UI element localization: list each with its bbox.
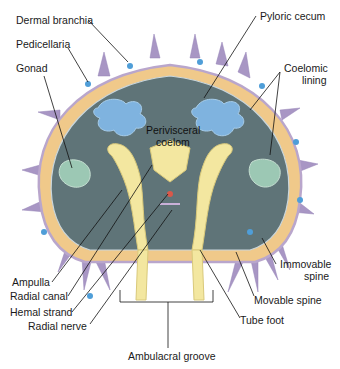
- label-coelomic-lining-1: Coelomic: [284, 62, 328, 74]
- label-hemal-strand: Hemal strand: [10, 306, 72, 318]
- label-pyloric-cecum: Pyloric cecum: [260, 10, 325, 22]
- label-tube-foot: Tube foot: [240, 314, 284, 326]
- label-gonad: Gonad: [16, 62, 48, 74]
- label-perivisceral-1: Perivisceral: [146, 124, 200, 136]
- label-immovable-2: spine: [304, 270, 329, 282]
- label-perivisceral-2: coelom: [156, 136, 190, 148]
- label-ampulla: Ampulla: [12, 276, 50, 288]
- label-radial-nerve: Radial nerve: [28, 320, 87, 332]
- label-immovable-1: Immovable: [280, 258, 331, 270]
- label-pedicellaria: Pedicellaria: [16, 38, 70, 50]
- label-radial-canal: Radial canal: [10, 290, 68, 302]
- label-dermal-branchia: Dermal branchia: [16, 14, 93, 26]
- label-movable-spine: Movable spine: [254, 294, 322, 306]
- label-ambulacral-groove: Ambulacral groove: [128, 350, 216, 362]
- label-coelomic-lining-2: lining: [302, 74, 327, 86]
